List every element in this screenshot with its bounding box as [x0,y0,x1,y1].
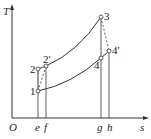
point-4p [107,49,111,53]
s-axis-arrow-icon [143,116,149,120]
t-axis-arrow-icon [10,4,14,10]
tick-h: h [107,121,113,133]
point-2 [36,67,40,71]
point-4 [99,56,103,60]
point-1 [36,89,40,93]
tick-e: e [35,121,40,133]
tick-f: f [44,121,49,133]
process-3-4p [101,17,109,51]
label-2: 2 [30,63,36,75]
s-axis-label: s [140,121,144,133]
label-1: 1 [30,85,36,97]
point-3 [99,15,103,19]
label-2p: 2′ [43,53,51,65]
process-2p-3 [46,17,101,66]
label-3: 3 [104,10,110,22]
label-4: 4 [94,59,100,71]
ts-diagram: T s O 1 2 2′ 3 4 4′ e f g h [0,0,151,139]
origin-label: O [9,121,17,133]
t-axis-label: T [3,5,10,17]
label-4p: 4′ [112,44,120,56]
tick-g: g [97,121,103,133]
